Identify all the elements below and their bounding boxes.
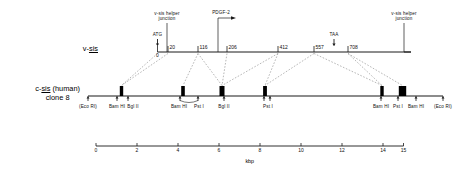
restriction-arrow-3	[179, 96, 182, 98]
restriction-site-label-8: Bam HI	[373, 104, 389, 110]
v-sis-position-20: 20	[170, 45, 176, 51]
row-label-c-sis-gene: sis	[41, 84, 50, 93]
helper-junction-left-line2: junction	[158, 16, 175, 22]
gene-map-figure: v-sis c-sis (human) clone 8 020116206412…	[0, 0, 473, 178]
scale-tick-label-15: 15	[401, 148, 407, 154]
restriction-site-label-6: Pst I	[263, 104, 273, 110]
scale-tick-label-12: 12	[339, 148, 345, 154]
restriction-arrow-0	[87, 96, 90, 98]
restriction-arrow-10	[415, 96, 418, 98]
pdgf-2-label: PDGF-2	[212, 10, 230, 16]
restriction-arrow-11	[442, 96, 445, 98]
exon-box-1	[181, 86, 185, 96]
restriction-arrow-8	[380, 96, 383, 98]
homology-connector-1	[122, 54, 169, 86]
restriction-site-label-0: (Eco RI)	[79, 104, 97, 110]
scale-tick-label-4: 4	[177, 148, 180, 154]
scale-tick-label-2: 2	[136, 148, 139, 154]
homology-connector-5	[222, 54, 278, 86]
exon-box-3	[263, 86, 267, 96]
site-pair-brace	[180, 101, 198, 103]
restriction-site-label-10: Bam HI	[408, 104, 424, 110]
homology-connector-8	[314, 54, 382, 86]
homology-connector-6	[265, 54, 278, 86]
scale-tick-label-10: 10	[298, 148, 304, 154]
exon-box-4	[380, 86, 383, 96]
row-label-c-sis-line1: c-sis (human)	[35, 84, 80, 93]
v-sis-position-708: 708	[350, 45, 358, 51]
row-label-v-sis: v-sis	[83, 44, 98, 53]
restriction-site-label-2: Bgl II	[127, 104, 138, 110]
codon-label-ATG: ATG	[153, 32, 163, 38]
scale-tick-label-8: 8	[259, 148, 262, 154]
codon-label-TAA: TAA	[329, 32, 338, 38]
exon-box-0	[120, 86, 123, 96]
helper-junction-right-line2: junction	[395, 16, 412, 22]
pdgf-2-direction-arrow	[231, 16, 236, 20]
restriction-arrow-4	[197, 96, 200, 98]
row-label-v-sis-gene: sis	[89, 44, 98, 53]
homology-connector-7	[265, 54, 314, 86]
exon-box-5	[399, 86, 406, 96]
restriction-arrow-7	[269, 96, 272, 98]
restriction-arrow-6	[263, 96, 266, 98]
v-sis-position-116: 116	[200, 45, 208, 51]
v-sis-position-0: 0	[156, 53, 159, 59]
v-sis-position-557: 557	[316, 45, 324, 51]
restriction-site-label-1: Bam HI	[109, 104, 125, 110]
restriction-arrow-5	[223, 96, 226, 98]
homology-connector-0	[122, 54, 158, 86]
restriction-site-label-9: Pst I	[393, 104, 403, 110]
homology-connector-2	[183, 54, 198, 86]
homology-connector-9	[348, 54, 382, 86]
codon-arrow-TAA	[332, 44, 335, 47]
restriction-site-label-11: (Eco RI)	[434, 104, 452, 110]
restriction-arrow-9	[397, 96, 400, 98]
row-label-c-sis-tail: (human)	[50, 84, 80, 93]
v-sis-position-206: 206	[229, 45, 237, 51]
scale-tick-label-0: 0	[95, 148, 98, 154]
homology-connector-3	[198, 54, 222, 86]
homology-connector-10	[348, 54, 403, 86]
scale-caption: kbp	[245, 158, 254, 164]
restriction-arrow-1	[116, 96, 119, 98]
restriction-site-label-3: Bam HI	[171, 104, 187, 110]
restriction-arrow-2	[127, 96, 130, 98]
scale-tick-label-14: 14	[380, 148, 386, 154]
scale-tick-label-6: 6	[218, 148, 221, 154]
codon-arrow-ATG	[156, 44, 159, 47]
restriction-site-label-4: Pst I	[194, 104, 204, 110]
row-label-c-sis: c-sis (human) clone 8	[35, 84, 80, 102]
row-label-c-sis-line2: clone 8	[35, 93, 80, 102]
exon-box-2	[220, 86, 225, 96]
restriction-site-label-5: Bgl II	[218, 104, 229, 110]
v-sis-position-412: 412	[280, 45, 288, 51]
homology-connector-4	[222, 54, 227, 86]
